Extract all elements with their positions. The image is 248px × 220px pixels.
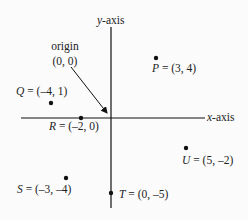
y-axis-label: y-axis: [97, 15, 124, 27]
point-dot-p: [154, 56, 158, 60]
origin-arrow: [71, 67, 107, 113]
point-dot-s: [64, 176, 68, 180]
x-axis-label: x-axis: [207, 112, 234, 124]
point-label-u: U = (5, –2): [182, 155, 233, 167]
point-label-p: P = (3, 4): [152, 63, 196, 75]
origin-label: origin (0, 0): [42, 41, 88, 67]
point-label-t: T = (0, –5): [119, 189, 168, 201]
point-dot-u: [184, 146, 188, 150]
point-dot-q: [49, 101, 53, 105]
point-label-s: S = (–3, –4): [17, 184, 71, 196]
point-label-q: Q = (–4, 1): [16, 86, 67, 98]
point-dot-t: [109, 191, 113, 195]
point-label-r: R = (–2, 0): [49, 121, 99, 133]
